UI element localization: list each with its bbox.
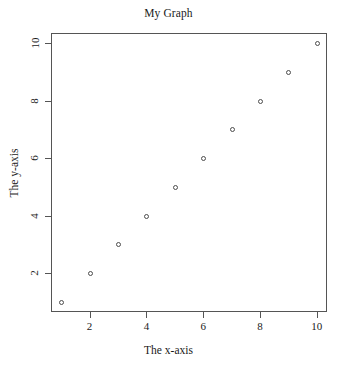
data-point [116,242,121,247]
x-axis-tick [90,312,91,318]
data-point [173,185,178,190]
data-point [286,70,291,75]
data-point [230,127,235,132]
chart-figure: My Graph 246810246810 The x-axis The y-a… [0,0,337,368]
data-point [59,300,64,305]
x-axis-tick-label: 2 [75,320,105,333]
y-axis-tick-label-text: 2 [26,270,42,276]
x-axis-tick [203,312,204,318]
x-axis-tick-label: 6 [188,320,218,333]
y-axis-tick-label: 2 [26,258,42,288]
x-axis-tick [260,312,261,318]
x-axis-tick-label: 4 [131,320,161,333]
y-axis-tick-label: 8 [26,86,42,116]
data-point [201,156,206,161]
y-axis-tick [45,101,51,102]
y-axis-tick-label-text: 4 [26,213,42,219]
data-point [258,99,263,104]
y-axis-tick [45,43,51,44]
x-axis-tick-label: 10 [302,320,332,333]
data-point [88,271,93,276]
chart-title: My Graph [0,6,337,20]
y-axis-tick-label: 6 [26,143,42,173]
data-point [315,41,320,46]
y-axis-tick-label-text: 6 [26,155,42,161]
y-axis-tick-label: 4 [26,201,42,231]
x-axis-tick [317,312,318,318]
scatter-data-layer [52,34,326,311]
data-point [144,214,149,219]
x-axis-tick-label: 8 [245,320,275,333]
y-axis-tick [45,273,51,274]
y-axis-label: The y-axis [6,123,22,223]
y-axis-tick-label-text: 10 [26,38,42,49]
y-axis-tick [45,216,51,217]
x-axis-label: The x-axis [0,343,337,357]
plot-area [51,33,327,312]
y-axis-tick-label-text: 8 [26,98,42,104]
x-axis-tick [146,312,147,318]
y-axis-tick [45,158,51,159]
y-axis-tick-label: 10 [26,28,42,58]
